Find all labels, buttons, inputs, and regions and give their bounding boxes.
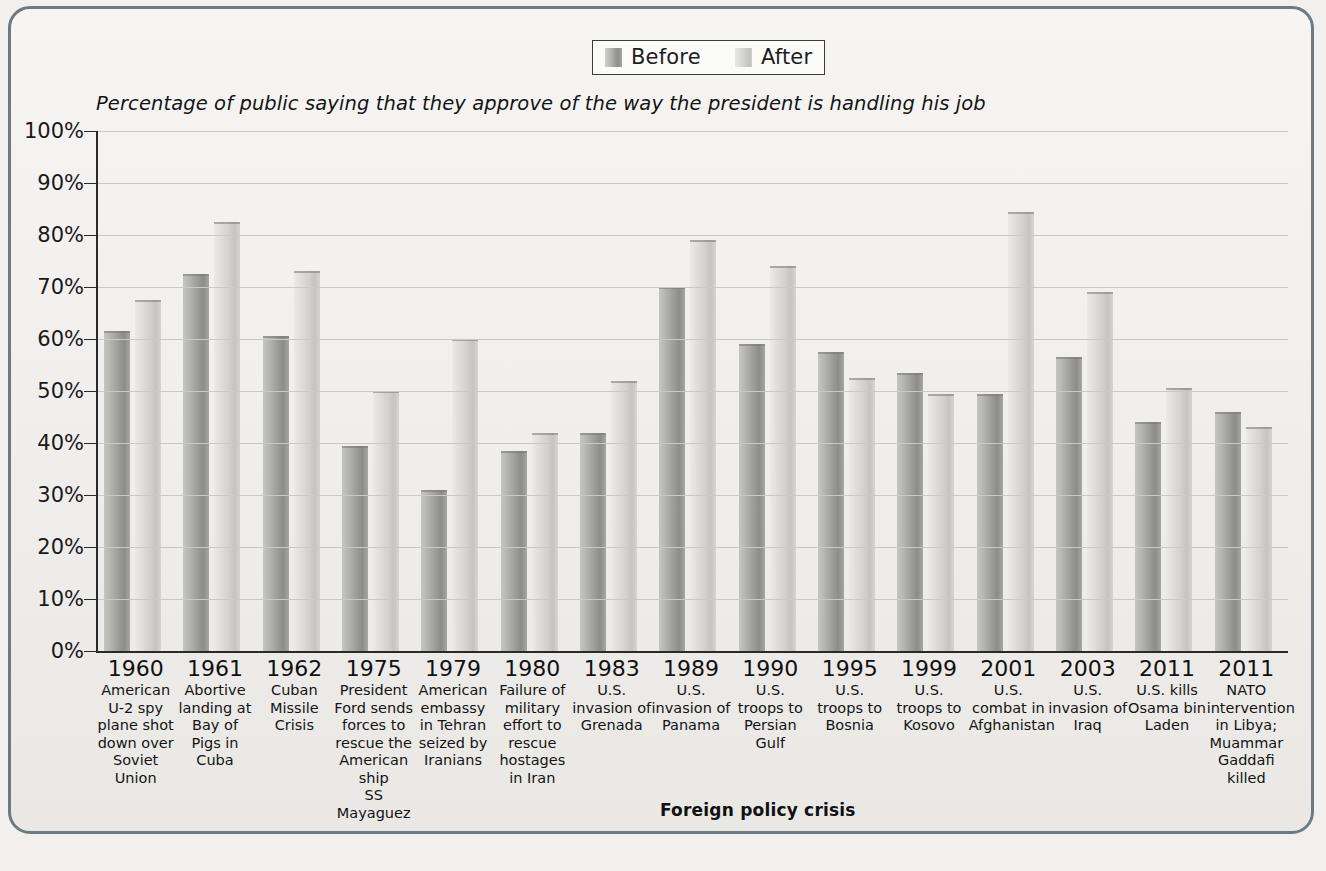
chart-page: Before After Percentage of public saying… [0, 0, 1326, 871]
bar-before [580, 433, 606, 651]
bar-before [977, 394, 1003, 651]
x-axis-category: 1990U.S. troops to Persian Gulf [731, 656, 810, 752]
legend-label-after: After [761, 45, 812, 69]
bar-cap [897, 373, 923, 375]
bar-before [104, 331, 130, 651]
x-axis-description: U.S. troops to Bosnia [810, 682, 889, 735]
gridline [98, 235, 1288, 236]
x-axis-year: 1980 [493, 656, 572, 681]
x-axis-description: U.S. kills Osama bin Laden [1127, 682, 1206, 735]
x-axis-year: 2001 [969, 656, 1048, 681]
plot-area [96, 131, 1288, 653]
x-axis-year: 2011 [1127, 656, 1206, 681]
bar-cap [1056, 357, 1082, 359]
x-axis-year: 1990 [731, 656, 810, 681]
chart-subtitle: Percentage of public saying that they ap… [96, 92, 986, 115]
bar-cap [818, 352, 844, 354]
y-axis-tick-label: 0% [51, 639, 84, 663]
bar-after [1087, 292, 1113, 651]
chart-legend: Before After [592, 40, 825, 75]
bar-cap [1246, 427, 1272, 429]
y-axis-tick [84, 287, 96, 288]
bar-cap [1008, 212, 1034, 214]
bar-after [532, 433, 558, 651]
x-axis-category: 1975President Ford sends forces to rescu… [334, 656, 413, 822]
legend-item-before: Before [605, 45, 701, 69]
bar-before [1056, 357, 1082, 651]
bar-cap [1215, 412, 1241, 414]
y-axis-tick-label: 20% [37, 535, 84, 559]
x-axis-category: 1961Abortive landing at Bay of Pigs in C… [175, 656, 254, 770]
x-axis-description: U.S. troops to Persian Gulf [731, 682, 810, 752]
bar-cap [1087, 292, 1113, 294]
x-axis-year: 1961 [175, 656, 254, 681]
bar-after [1246, 427, 1272, 651]
y-axis-tick-label: 80% [37, 223, 84, 247]
bar-before [501, 451, 527, 651]
bar-cap [135, 300, 161, 302]
y-axis-tick [84, 339, 96, 340]
bar-before [897, 373, 923, 651]
x-axis-description: U.S. invasion of Grenada [572, 682, 651, 735]
legend-label-before: Before [631, 45, 701, 69]
bar-before [263, 336, 289, 651]
bar-after [928, 394, 954, 651]
bar-cap [580, 433, 606, 435]
bar-before [183, 274, 209, 651]
x-axis-year: 1999 [889, 656, 968, 681]
bar-cap [1135, 422, 1161, 424]
x-axis-year: 1983 [572, 656, 651, 681]
bar-after [1008, 212, 1034, 651]
x-axis-title: Foreign policy crisis [660, 800, 856, 820]
x-axis-year: 1979 [413, 656, 492, 681]
y-axis-tick [84, 495, 96, 496]
y-axis-tick [84, 651, 96, 652]
y-axis-tick-label: 40% [37, 431, 84, 455]
gridline [98, 183, 1288, 184]
bar-after [373, 391, 399, 651]
gridline [98, 131, 1288, 132]
x-axis-category: 1960American U-2 spy plane shot down ove… [96, 656, 175, 787]
y-axis-tick-label: 50% [37, 379, 84, 403]
x-axis-category: 1962Cuban Missile Crisis [255, 656, 334, 735]
gridline [98, 443, 1288, 444]
x-axis-description: U.S. invasion of Panama [651, 682, 730, 735]
bar-before [1215, 412, 1241, 651]
bar-before [818, 352, 844, 651]
x-axis-category: 1989U.S. invasion of Panama [651, 656, 730, 735]
bar-cap [501, 451, 527, 453]
x-axis-category: 1999U.S. troops to Kosovo [889, 656, 968, 735]
bar-cap [342, 446, 368, 448]
gridline [98, 599, 1288, 600]
y-axis-tick-label: 70% [37, 275, 84, 299]
bar-after [611, 381, 637, 651]
gridline [98, 547, 1288, 548]
bar-cap [294, 271, 320, 273]
bar-cap [104, 331, 130, 333]
y-axis-tick-label: 10% [37, 587, 84, 611]
y-axis-tick-label: 100% [24, 119, 84, 143]
bar-cap [849, 378, 875, 380]
bar-cap [739, 344, 765, 346]
x-axis-year: 1960 [96, 656, 175, 681]
x-axis-category: 1980Failure of military effort to rescue… [493, 656, 572, 787]
x-axis-description-italic: SS Mayaguez [334, 787, 413, 822]
x-axis-category: 2001U.S. combat in Afghanistan [969, 656, 1048, 735]
x-axis-category: 2011U.S. kills Osama bin Laden [1127, 656, 1206, 735]
bar-before [659, 287, 685, 651]
bar-after [1166, 388, 1192, 651]
legend-item-after: After [735, 45, 812, 69]
gridline [98, 339, 1288, 340]
bar-cap [532, 433, 558, 435]
legend-swatch-after [735, 48, 752, 67]
y-axis-tick [84, 547, 96, 548]
y-axis-labels: 0%10%20%30%40%50%60%70%80%90%100% [0, 131, 88, 651]
x-axis-category: 1983U.S. invasion of Grenada [572, 656, 651, 735]
y-axis-tick [84, 443, 96, 444]
y-axis-tick [84, 391, 96, 392]
bar-cap [928, 394, 954, 396]
x-axis-description: Abortive landing at Bay of Pigs in Cuba [175, 682, 254, 770]
x-axis-category: 1979American embassy in Tehran seized by… [413, 656, 492, 770]
y-axis-tick [84, 599, 96, 600]
bar-cap [183, 274, 209, 276]
